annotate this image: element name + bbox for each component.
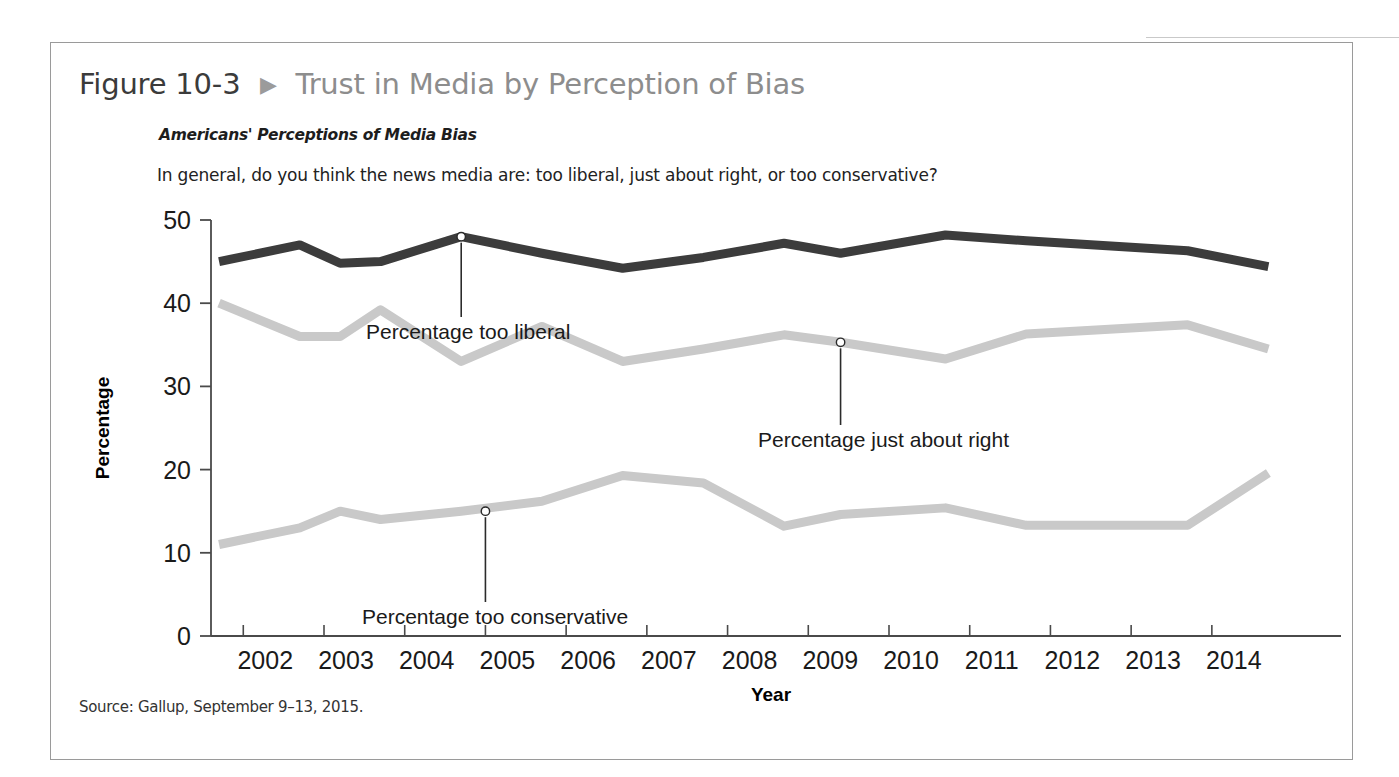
- x-tick-label-2005: 2005: [480, 646, 536, 674]
- annotation-marker-icon: [457, 232, 465, 240]
- annotation-percentage-too-conservative: Percentage too conservative: [362, 507, 628, 628]
- annotation-label: Percentage too liberal: [366, 320, 570, 343]
- x-axis-tick-labels: 2002200320042005200620072008200920102011…: [237, 646, 1261, 674]
- x-tick-label-2008: 2008: [722, 646, 778, 674]
- y-tick-label-10: 10: [163, 539, 191, 567]
- source-note: Source: Gallup, September 9–13, 2015.: [79, 698, 363, 716]
- y-tick-label-50: 50: [163, 206, 191, 234]
- y-tick-label-40: 40: [163, 289, 191, 317]
- x-tick-label-2007: 2007: [641, 646, 697, 674]
- x-tick-label-2013: 2013: [1125, 646, 1181, 674]
- chart-plot-area: 01020304050 2002200320042005200620072008…: [51, 43, 1354, 761]
- x-tick-label-2009: 2009: [802, 646, 858, 674]
- x-tick-label-2003: 2003: [318, 646, 374, 674]
- y-axis-tick-labels: 01020304050: [163, 206, 191, 650]
- line-chart: 01020304050 2002200320042005200620072008…: [51, 43, 1354, 761]
- y-tick-label-0: 0: [177, 622, 191, 650]
- x-axis-title: Year: [751, 684, 792, 705]
- annotation-label: Percentage just about right: [758, 428, 1009, 451]
- x-tick-label-2002: 2002: [237, 646, 293, 674]
- series-line-percentage-too-conservative: [219, 473, 1268, 545]
- chart-series-group: [219, 235, 1268, 545]
- x-tick-label-2006: 2006: [560, 646, 616, 674]
- y-tick-label-20: 20: [163, 456, 191, 484]
- annotation-label: Percentage too conservative: [362, 605, 628, 628]
- y-axis-title: Percentage: [92, 377, 113, 479]
- x-tick-label-2010: 2010: [883, 646, 939, 674]
- page-top-rule: [1146, 37, 1399, 38]
- x-tick-label-2004: 2004: [399, 646, 455, 674]
- y-axis-ticks: [200, 220, 211, 636]
- series-line-percentage-too-liberal: [219, 235, 1268, 268]
- x-tick-label-2014: 2014: [1206, 646, 1262, 674]
- annotation-marker-icon: [836, 338, 844, 346]
- x-tick-label-2011: 2011: [965, 646, 1019, 674]
- chart-annotations-group: Percentage too liberalPercentage just ab…: [362, 232, 1009, 628]
- y-tick-label-30: 30: [163, 372, 191, 400]
- annotation-marker-icon: [481, 507, 489, 515]
- x-tick-label-2012: 2012: [1045, 646, 1101, 674]
- figure-box: Figure 10-3▶Trust in Media by Perception…: [50, 42, 1353, 760]
